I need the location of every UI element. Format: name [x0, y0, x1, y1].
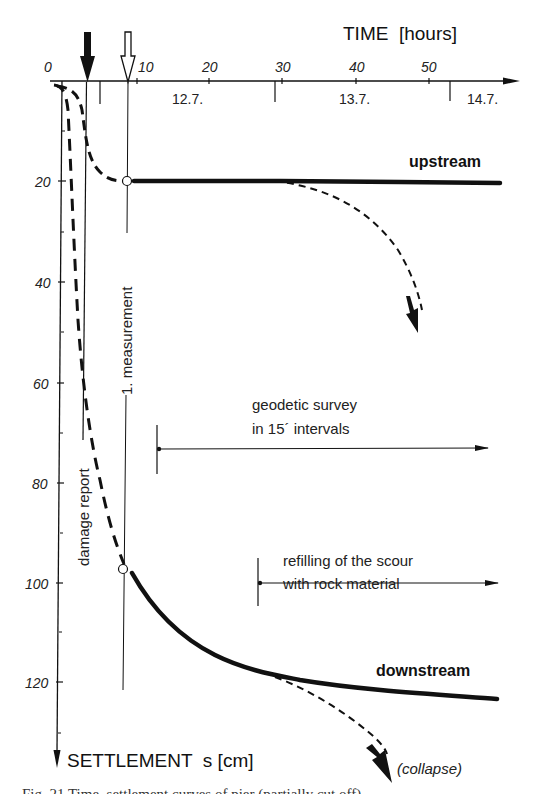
x-tick-label: 20: [201, 59, 218, 75]
date-label: 14.7.: [467, 91, 498, 107]
y-tick-label: 80: [32, 476, 48, 492]
x-axis: 0 10 20 30 40 50 12.7. 13.7. 14.7. TIME …: [44, 23, 520, 107]
collapse-label: (collapse): [397, 760, 462, 777]
upstream-measured: [134, 181, 500, 183]
damage-report-label: damage report: [75, 468, 92, 566]
upstream-first-measurement-point: [123, 177, 132, 186]
x-axis-arrow-icon: [503, 78, 520, 85]
y-tick-label: 120: [25, 675, 49, 691]
downstream-first-measurement-point: [119, 565, 128, 574]
first-measurement-marker: 1. measurement: [118, 32, 135, 690]
settlement-time-chart: 0 10 20 30 40 50 12.7. 13.7. 14.7. TIME …: [0, 0, 534, 802]
survey-label-line2: in 15´ intervals: [252, 420, 350, 437]
x-tick-label: 50: [421, 59, 437, 75]
y-tick-label: 40: [35, 275, 51, 291]
downstream-label: downstream: [376, 662, 470, 679]
date-label: 13.7.: [339, 91, 370, 107]
geodetic-survey-annotation: geodetic survey in 15´ intervals: [157, 396, 488, 474]
refilling-annotation: refilling of the scour with rock materia…: [258, 552, 498, 606]
upstream-projected: [275, 181, 422, 310]
filled-down-arrow-icon: [80, 32, 95, 82]
hollow-down-arrow-icon: [121, 32, 135, 82]
x-tick-label: 10: [138, 59, 154, 75]
collapse-arrow-icon: [406, 296, 418, 333]
y-axis-arrow-icon: [54, 750, 61, 768]
date-label: 12.7.: [172, 91, 203, 107]
collapse-arrow-icon: [366, 744, 392, 783]
first-measurement-label: 1. measurement: [118, 286, 135, 395]
y-tick-label: 20: [34, 174, 51, 190]
y-tick-label: 60: [33, 376, 49, 392]
refill-label-line1: refilling of the scour: [283, 552, 413, 569]
x-origin-label: 0: [44, 59, 52, 75]
y-tick-label: 100: [25, 576, 49, 592]
survey-label-line1: geodetic survey: [252, 396, 358, 413]
x-tick-label: 30: [275, 59, 291, 75]
y-axis-title: SETTLEMENT s [cm]: [67, 750, 254, 771]
upstream-label: upstream: [409, 153, 481, 170]
y-axis: 20 40 60 80 100 120 SETTLEMENT s [cm]: [25, 81, 254, 771]
x-tick-label: 40: [349, 59, 365, 75]
x-axis-title: TIME [hours]: [343, 23, 457, 44]
